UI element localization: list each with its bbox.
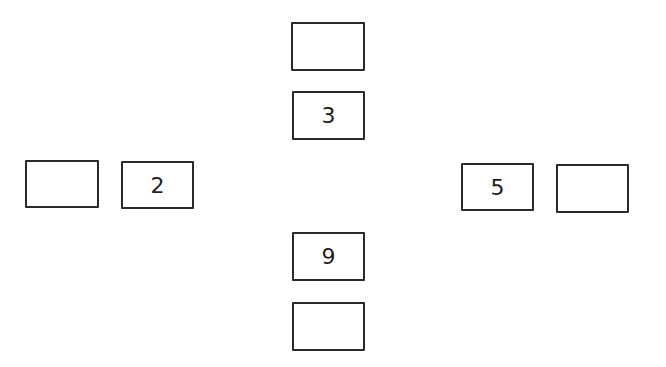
box-value: 2 <box>151 173 165 198</box>
box-top-outer <box>291 22 365 71</box>
box-left-outer <box>25 160 99 208</box>
box-bottom-inner: 9 <box>292 232 365 281</box>
box-left-inner: 2 <box>121 161 194 209</box>
box-value: 9 <box>322 244 336 269</box>
box-value: 5 <box>491 175 505 200</box>
box-top-inner: 3 <box>292 91 365 140</box>
box-right-inner: 5 <box>461 163 534 211</box>
box-bottom-outer <box>292 302 365 351</box>
box-right-outer <box>556 164 629 213</box>
box-value: 3 <box>322 103 336 128</box>
